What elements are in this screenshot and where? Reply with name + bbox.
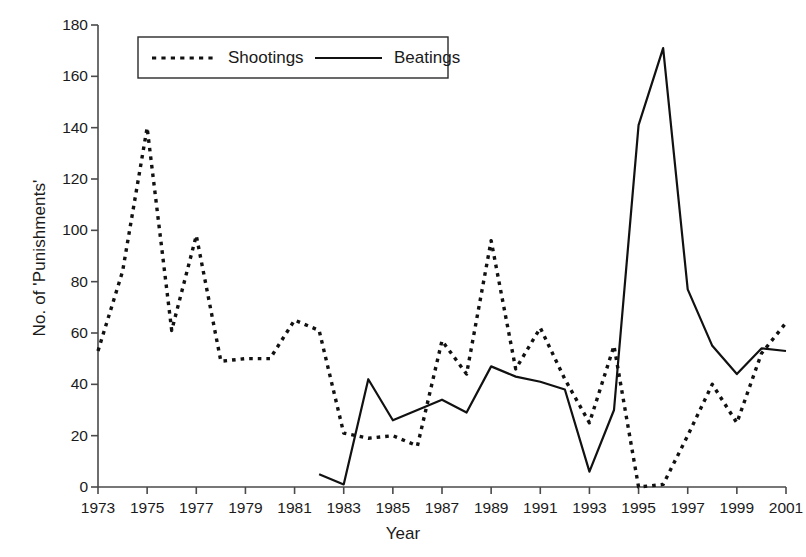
x-tick-label: 1989 bbox=[474, 499, 508, 517]
y-tick-label: 40 bbox=[20, 375, 88, 393]
x-tick-label: 1999 bbox=[720, 499, 754, 517]
x-tick-label: 1977 bbox=[179, 499, 213, 517]
x-axis-title: Year bbox=[0, 524, 806, 544]
x-axis-ticks bbox=[98, 487, 786, 494]
y-tick-label: 140 bbox=[20, 119, 88, 137]
x-tick-label: 1979 bbox=[228, 499, 262, 517]
chart-plot-area bbox=[0, 0, 806, 557]
data-series-group bbox=[98, 48, 786, 487]
legend-label-shootings: Shootings bbox=[228, 48, 304, 68]
x-tick-label: 1973 bbox=[81, 499, 115, 517]
series-line-beatings bbox=[319, 48, 786, 484]
x-tick-label: 1997 bbox=[670, 499, 704, 517]
x-tick-label: 1985 bbox=[376, 499, 410, 517]
x-tick-label: 1983 bbox=[326, 499, 360, 517]
series-line-shootings bbox=[98, 128, 786, 487]
chart-figure: 020406080100120140160180 197319751977197… bbox=[0, 0, 806, 557]
y-tick-label: 0 bbox=[20, 478, 88, 496]
x-tick-label: 1993 bbox=[572, 499, 606, 517]
x-tick-label: 1995 bbox=[621, 499, 655, 517]
y-axis-ticks bbox=[91, 25, 98, 487]
y-tick-label: 160 bbox=[20, 67, 88, 85]
y-tick-label: 180 bbox=[20, 16, 88, 34]
x-tick-label: 1975 bbox=[130, 499, 164, 517]
x-tick-label: 1987 bbox=[425, 499, 459, 517]
x-tick-label: 1981 bbox=[277, 499, 311, 517]
y-axis-title: No. of 'Punishments' bbox=[30, 148, 50, 368]
legend-label-beatings: Beatings bbox=[394, 48, 460, 68]
x-tick-label: 2001 bbox=[769, 499, 803, 517]
x-tick-label: 1991 bbox=[523, 499, 557, 517]
y-tick-label: 20 bbox=[20, 427, 88, 445]
